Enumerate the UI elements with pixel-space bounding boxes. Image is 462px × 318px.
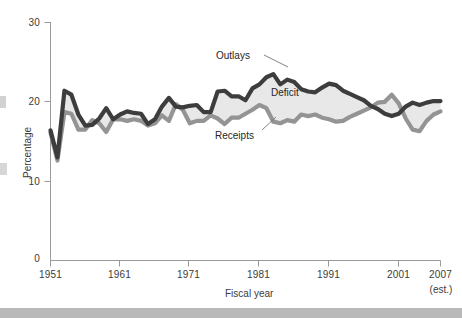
y-axis-title: Percentage [22,127,33,178]
y-tick-label-0: 0 [18,253,40,264]
x-axis-ticks [51,261,441,267]
series-label-outlays: Outlays [216,50,250,61]
scan-edge-band [0,308,462,318]
x-tick-estimate-note: (est.) [421,284,461,295]
series-label-deficit: Deficit [271,87,299,98]
x-tick-label-1961: 1961 [97,269,142,280]
x-tick-label-2001: 2001 [376,269,421,280]
x-axis-title: Fiscal year [225,288,273,299]
x-tick-label-1951: 1951 [28,269,73,280]
y-axis-ticks [45,23,51,182]
outlays-leader-line [264,55,288,67]
deficit-surplus-fill-area [51,74,441,160]
y-tick-label-30: 30 [18,17,40,28]
x-tick-label-2007: 2007 [418,269,462,280]
x-tick-label-1991: 1991 [306,269,351,280]
x-tick-label-1971: 1971 [166,269,211,280]
x-tick-label-1981: 1981 [236,269,281,280]
y-tick-label-20: 20 [18,96,40,107]
series-label-receipts: Receipts [215,130,254,141]
chart-figure: 30 20 10 0 1951 1961 1971 1981 1991 2001… [0,0,462,318]
